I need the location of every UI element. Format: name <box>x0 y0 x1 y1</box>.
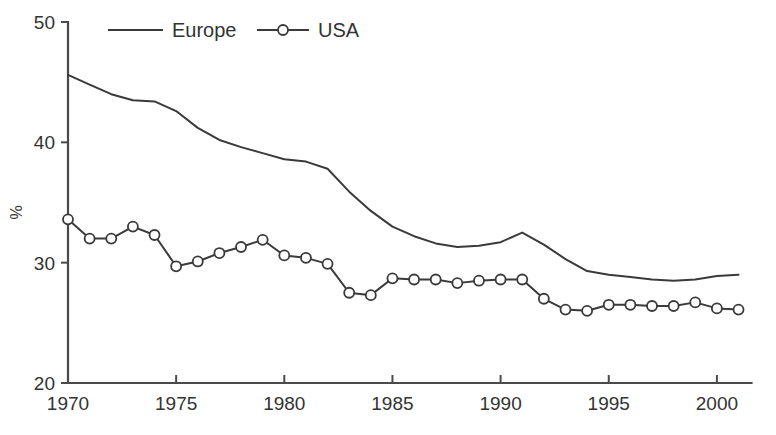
data-point-marker <box>560 305 570 315</box>
data-point-marker <box>301 253 311 263</box>
data-point-marker <box>366 290 376 300</box>
data-point-marker <box>214 248 224 258</box>
data-point-marker <box>193 256 203 266</box>
series-europe <box>68 75 739 281</box>
data-point-marker <box>517 275 527 285</box>
legend-marker-usa <box>278 25 288 35</box>
x-tick-label: 1990 <box>479 393 521 414</box>
x-tick-label: 1980 <box>263 393 305 414</box>
data-point-marker <box>734 305 744 315</box>
legend-label-europe: Europe <box>172 19 237 41</box>
x-tick-label: 1975 <box>155 393 197 414</box>
y-tick-label: 30 <box>34 253 55 274</box>
y-tick-label: 20 <box>34 373 55 394</box>
data-point-marker <box>106 234 116 244</box>
y-tick-label: 50 <box>34 12 55 33</box>
x-axis-ticks: 1970197519801985199019952000 <box>47 375 738 414</box>
series-usa <box>63 214 744 315</box>
x-tick-label: 1995 <box>588 393 630 414</box>
data-point-marker <box>323 259 333 269</box>
data-point-marker <box>474 276 484 286</box>
x-tick-label: 2000 <box>696 393 738 414</box>
data-point-marker <box>669 301 679 311</box>
data-point-marker <box>431 275 441 285</box>
chart-container: 203040501970197519801985199019952000%Eur… <box>0 0 776 435</box>
data-point-marker <box>539 294 549 304</box>
data-point-marker <box>85 234 95 244</box>
x-tick-label: 1985 <box>371 393 413 414</box>
data-point-marker <box>452 278 462 288</box>
data-point-marker <box>63 214 73 224</box>
data-point-marker <box>258 235 268 245</box>
data-point-marker <box>236 242 246 252</box>
data-point-marker <box>582 306 592 316</box>
data-point-marker <box>344 288 354 298</box>
data-point-marker <box>604 300 614 310</box>
data-point-marker <box>409 275 419 285</box>
line-chart: 203040501970197519801985199019952000%Eur… <box>0 0 776 435</box>
x-tick-label: 1970 <box>47 393 89 414</box>
chart-legend: EuropeUSA <box>108 19 360 41</box>
y-tick-label: 40 <box>34 132 55 153</box>
data-point-marker <box>150 230 160 240</box>
chart-axes <box>68 22 752 383</box>
data-point-marker <box>128 222 138 232</box>
legend-label-usa: USA <box>318 19 360 41</box>
chart-series-group <box>63 75 744 316</box>
data-point-marker <box>171 261 181 271</box>
series-line-europe <box>68 75 739 281</box>
data-point-marker <box>647 301 657 311</box>
data-point-marker <box>690 297 700 307</box>
data-point-marker <box>496 275 506 285</box>
data-point-marker <box>279 250 289 260</box>
series-line-usa <box>68 219 739 310</box>
data-point-marker <box>625 300 635 310</box>
data-point-marker <box>712 303 722 313</box>
y-axis-title: % <box>8 205 25 219</box>
y-axis-ticks: 20304050 <box>34 12 68 394</box>
data-point-marker <box>387 273 397 283</box>
